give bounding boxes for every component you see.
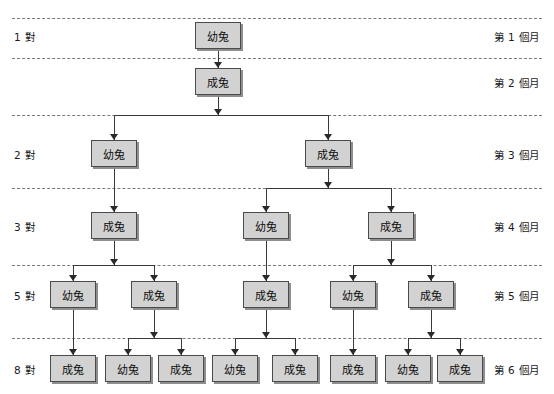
rabbit-node-adult-r2c1: 成兔 [305, 140, 351, 167]
pair-count-label-row-2: 2 對 [14, 147, 36, 162]
rabbit-node-adult-r5c0: 成兔 [50, 355, 96, 382]
connector-bus [353, 265, 431, 266]
rabbit-node-adult-r4c1: 成兔 [131, 281, 177, 308]
connector-straight [353, 308, 354, 355]
rabbit-node-adult-r4c2: 成兔 [243, 281, 289, 308]
rabbit-node-young-r4c0: 幼兔 [50, 281, 96, 308]
month-label-row-0: 第 1 個月 [494, 29, 540, 44]
connector-bus [128, 338, 181, 339]
connector-bus [408, 338, 460, 339]
rabbit-node-young-r0c0: 幼兔 [195, 22, 241, 49]
connector-bus [73, 265, 154, 266]
rabbit-node-young-r5c1: 幼兔 [105, 355, 151, 382]
rabbit-node-young-r5c6: 幼兔 [385, 355, 431, 382]
rabbit-node-adult-r3c0: 成兔 [91, 212, 137, 239]
connector-bus [235, 338, 295, 339]
rabbit-node-adult-r5c4: 成兔 [272, 355, 318, 382]
month-label-row-1: 第 2 個月 [494, 75, 540, 90]
connector-bus [266, 188, 391, 189]
pair-count-label-row-3: 3 對 [14, 219, 36, 234]
rabbit-node-young-r4c3: 幼兔 [330, 281, 376, 308]
pair-count-label-row-0: 1 對 [14, 29, 36, 44]
pair-count-label-row-5: 8 對 [14, 362, 36, 377]
rabbit-node-young-r3c1: 幼兔 [243, 212, 289, 239]
fibonacci-rabbit-diagram: 幼兔成兔幼兔成兔成兔幼兔成兔幼兔成兔成兔幼兔成兔成兔幼兔成兔幼兔成兔成兔幼兔成兔… [0, 0, 554, 394]
rabbit-node-adult-r3c2: 成兔 [368, 212, 414, 239]
rabbit-node-adult-r5c5: 成兔 [330, 355, 376, 382]
connector-straight [73, 308, 74, 355]
month-label-row-2: 第 3 個月 [494, 147, 540, 162]
rabbit-node-adult-r5c2: 成兔 [158, 355, 204, 382]
rabbit-node-adult-r5c7: 成兔 [437, 355, 483, 382]
rabbit-node-young-r5c3: 幼兔 [212, 355, 258, 382]
rabbit-node-adult-r1c0: 成兔 [195, 68, 241, 95]
month-divider-1 [12, 58, 542, 59]
connector-bus [114, 115, 328, 116]
month-label-row-3: 第 4 個月 [494, 219, 540, 234]
pair-count-label-row-4: 5 對 [14, 288, 36, 303]
month-label-row-4: 第 5 個月 [494, 288, 540, 303]
month-divider-0 [12, 18, 542, 19]
month-label-row-5: 第 6 個月 [494, 362, 540, 377]
rabbit-node-young-r2c0: 幼兔 [91, 140, 137, 167]
rabbit-node-adult-r4c4: 成兔 [408, 281, 454, 308]
